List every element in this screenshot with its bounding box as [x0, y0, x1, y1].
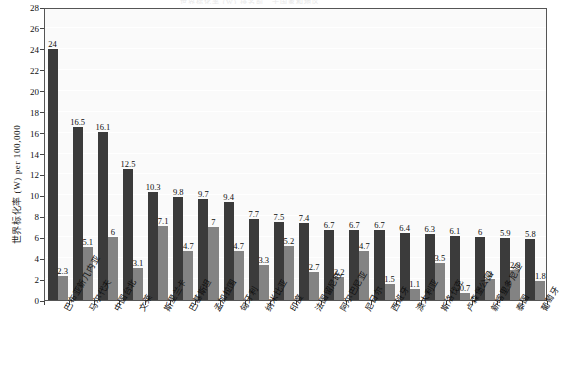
bar-group: 6.10.7 — [447, 9, 472, 300]
x-axis-tick-mark — [69, 301, 70, 305]
x-axis-tick-mark — [94, 301, 95, 305]
bar: 7.1 — [158, 226, 168, 300]
y-axis-tick: 18 — [30, 108, 44, 118]
bar: 2.7 — [309, 272, 319, 300]
x-axis-tick-mark — [145, 301, 146, 305]
bar-group: 242.3 — [45, 9, 70, 300]
bar-group: 9.77 — [196, 9, 221, 300]
bar-value-label: 9.7 — [198, 189, 209, 199]
y-axis-tick: 24 — [30, 45, 44, 55]
bar: 9.7 — [198, 199, 208, 301]
bar-value-label: 16.5 — [70, 117, 85, 127]
x-axis-tick-mark — [346, 301, 347, 305]
bar-group: 9.84.7 — [171, 9, 196, 300]
bar: 6.1 — [450, 236, 460, 300]
bar-value-label: 6.1 — [450, 226, 461, 236]
y-axis-tick: 26 — [30, 24, 44, 34]
bar: 6.7 — [374, 230, 384, 300]
bar-value-label: 5.9 — [500, 228, 511, 238]
bar: 6 — [108, 237, 118, 300]
bar-group: 10.37.1 — [146, 9, 171, 300]
bar-value-label: 3.5 — [435, 253, 446, 263]
bar: 5.1 — [83, 247, 93, 300]
x-axis-tick-mark — [446, 301, 447, 305]
y-axis-tick: 10 — [30, 191, 44, 201]
bar-value-label: 5.8 — [525, 229, 536, 239]
bar-group: 5.92.9 — [498, 9, 523, 300]
bar-value-label: 6 — [111, 227, 115, 237]
bar-value-label: 2.2 — [334, 267, 345, 277]
y-axis-tick: 6 — [35, 233, 45, 243]
bar: 6.7 — [324, 230, 334, 300]
x-axis-tick-mark — [245, 301, 246, 305]
plot-area: 242.316.55.116.1612.53.110.37.19.84.79.7… — [44, 8, 547, 301]
bar-value-label: 7 — [211, 217, 215, 227]
y-axis-tick: 2 — [35, 275, 45, 285]
bar-group: 6.72.2 — [322, 9, 347, 300]
bar: 3.3 — [259, 265, 269, 300]
bar-group: 7.42.7 — [297, 9, 322, 300]
y-axis-tick: 8 — [35, 212, 45, 222]
bar-value-label: 6 — [478, 227, 482, 237]
x-axis-tick-mark — [296, 301, 297, 305]
bar-value-label: 1.1 — [409, 279, 420, 289]
x-axis-tick-mark — [472, 301, 473, 305]
bar-value-label: 7.7 — [248, 209, 259, 219]
bar-value-label: 2.3 — [57, 266, 68, 276]
y-axis-tick: 12 — [30, 170, 44, 180]
bar-series-container: 242.316.55.116.1612.53.110.37.19.84.79.7… — [45, 9, 546, 300]
x-axis-tick-mark — [119, 301, 120, 305]
bar-value-label: 9.8 — [173, 187, 184, 197]
bar-value-label: 0.7 — [460, 283, 471, 293]
y-axis-tick: 28 — [30, 3, 44, 13]
bar: 6.7 — [349, 230, 359, 300]
bar-value-label: 1.5 — [384, 274, 395, 284]
bar-group: 62 — [473, 9, 498, 300]
bar-value-label: 2.7 — [309, 262, 320, 272]
bar-value-label: 6.7 — [349, 220, 360, 230]
x-axis-tick-mark — [396, 301, 397, 305]
y-axis-tick: 0 — [35, 296, 45, 306]
bar-value-label: 4.7 — [183, 241, 194, 251]
bar-group: 16.16 — [95, 9, 120, 300]
bar: 1.5 — [385, 284, 395, 300]
bar: 4.7 — [183, 251, 193, 300]
bar-value-label: 6.4 — [399, 223, 410, 233]
bar: 6.4 — [400, 233, 410, 300]
bar-value-label: 3.3 — [258, 255, 269, 265]
y-axis-tick: 16 — [30, 129, 44, 139]
bar-group: 12.53.1 — [120, 9, 145, 300]
bar-value-label: 4.7 — [233, 241, 244, 251]
x-axis-tick-mark — [371, 301, 372, 305]
x-axis-tick-mark — [497, 301, 498, 305]
bar: 6.3 — [425, 234, 435, 300]
bar: 7.5 — [274, 222, 284, 300]
bar-group: 7.55.2 — [271, 9, 296, 300]
bar: 5.9 — [500, 238, 510, 300]
bar-value-label: 5.1 — [82, 237, 93, 247]
y-axis-tick-labels: 0246810121416182022242628 — [0, 8, 44, 301]
x-axis-tick-mark — [44, 301, 45, 305]
bar: 0.7 — [460, 293, 470, 300]
x-axis-tick-mark — [270, 301, 271, 305]
bar-group: 9.44.7 — [221, 9, 246, 300]
bar: 1.8 — [535, 281, 545, 300]
bar-value-label: 6.7 — [324, 220, 335, 230]
bar-value-label: 1.8 — [535, 271, 546, 281]
bar: 16.5 — [73, 127, 83, 300]
bar-group: 6.41.1 — [397, 9, 422, 300]
x-axis-tick-mark — [220, 301, 221, 305]
bar: 5.2 — [284, 246, 294, 300]
bar: 12.5 — [123, 169, 133, 300]
bar-group: 7.73.3 — [246, 9, 271, 300]
bar-value-label: 5.2 — [284, 236, 295, 246]
bar-value-label: 16.1 — [95, 122, 110, 132]
bar: 4.7 — [359, 251, 369, 300]
bar-group: 6.74.7 — [347, 9, 372, 300]
bar: 10.3 — [148, 192, 158, 300]
x-axis-tick-mark — [522, 301, 523, 305]
bar-value-label: 12.5 — [121, 159, 136, 169]
x-axis-tick-mark — [321, 301, 322, 305]
bar-group: 16.55.1 — [70, 9, 95, 300]
